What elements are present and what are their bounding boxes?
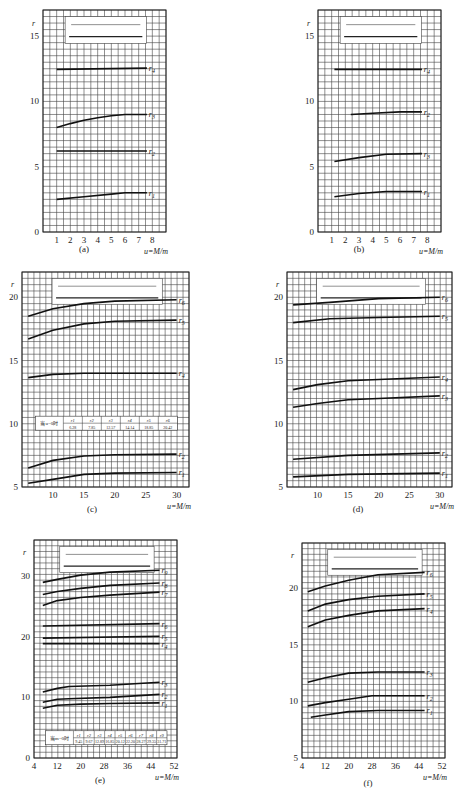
svg-text:(f): (f) <box>364 778 373 788</box>
svg-text:r6: r6 <box>427 568 433 578</box>
curve-r5 <box>308 594 425 611</box>
svg-text:36: 36 <box>391 761 401 771</box>
svg-text:r3: r3 <box>427 668 433 678</box>
svg-text:u=M/m: u=M/m <box>423 773 447 782</box>
curve-r2 <box>308 696 425 706</box>
svg-text:r5: r5 <box>427 590 433 600</box>
beam-schematic-inset <box>328 549 422 575</box>
svg-text:10: 10 <box>289 696 299 706</box>
curve-r3 <box>308 672 425 682</box>
svg-text:r: r <box>291 551 295 560</box>
svg-text:5: 5 <box>294 753 299 763</box>
chart-panel-f: 5101520r4122028364452u=M/mr1r2r3r4r5r6(f… <box>0 0 463 800</box>
curve-r4 <box>308 609 425 627</box>
svg-text:44: 44 <box>414 761 424 771</box>
svg-text:r1: r1 <box>427 706 433 716</box>
svg-text:28: 28 <box>368 761 378 771</box>
svg-text:r4: r4 <box>427 605 433 615</box>
svg-text:20: 20 <box>344 761 354 771</box>
svg-text:52: 52 <box>438 761 447 771</box>
svg-text:r2: r2 <box>427 692 433 702</box>
svg-text:4: 4 <box>300 761 305 771</box>
svg-text:20: 20 <box>289 583 299 593</box>
svg-text:15: 15 <box>289 640 299 650</box>
svg-text:12: 12 <box>321 761 330 771</box>
